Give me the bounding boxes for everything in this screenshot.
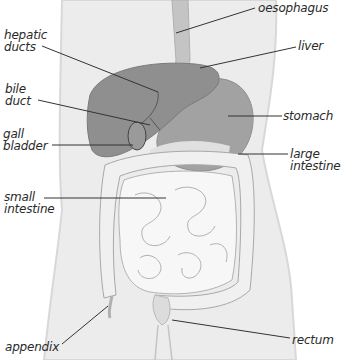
- label-stomach: stomach: [283, 110, 333, 122]
- label-large-intestine: large intestine: [290, 148, 341, 172]
- small-intestine-organ: [119, 171, 237, 294]
- label-rectum: rectum: [292, 334, 334, 346]
- label-bile-duct: bile duct: [5, 83, 31, 107]
- label-appendix: appendix: [5, 341, 59, 353]
- label-gall-bladder: gall bladder: [3, 128, 47, 152]
- label-hepatic-ducts: hepatic ducts: [4, 29, 47, 53]
- label-liver: liver: [298, 40, 323, 52]
- label-oesophagus: oesophagus: [258, 2, 328, 14]
- label-small-intestine: small intestine: [4, 191, 55, 215]
- gall-bladder-organ: [128, 122, 146, 150]
